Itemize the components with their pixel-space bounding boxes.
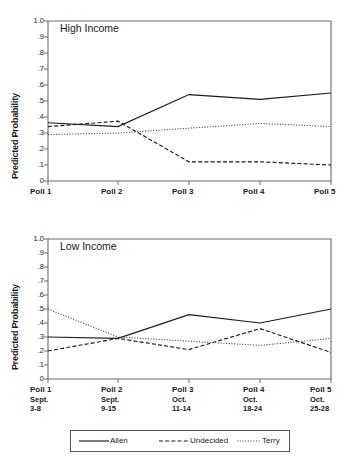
legend-label-terry: Terry: [262, 436, 280, 445]
x-tick-date-month: Sept.: [101, 395, 122, 405]
series-line-allen: [48, 93, 331, 127]
chart-legend: Allen Undecided Terry: [70, 430, 290, 452]
legend-label-allen: Allen: [110, 436, 128, 445]
x-tick-date-month: Oct.: [243, 395, 264, 405]
x-tick-label: Poll 2 Sept. 9-15: [101, 385, 122, 414]
legend-swatches: [71, 431, 289, 451]
x-tick-label: Poll 1 Sept. 3-8: [30, 385, 51, 414]
plot-area-high-income: [0, 4, 363, 209]
x-tick-date-range: 3-8: [30, 404, 51, 414]
chart-panel-low-income: Predicted Probability Low Income 1.0 .9 …: [0, 222, 363, 397]
x-tick-date-month: Sept.: [30, 395, 51, 405]
x-tick-poll-label: Poll 3: [172, 385, 193, 394]
series-line-undecided: [48, 329, 331, 353]
series-line-allen: [48, 309, 331, 338]
x-tick-date-range: 25-28: [310, 404, 331, 414]
x-tick-date-range: 18-24: [243, 404, 264, 414]
x-tick-label: Poll 3: [172, 187, 193, 197]
x-tick-date-month: Oct.: [310, 395, 331, 405]
x-tick-date-range: 9-15: [101, 404, 122, 414]
x-tick-label: Poll 3 Oct. 11-14: [172, 385, 193, 414]
plot-area-low-income: [0, 222, 363, 397]
series-line-undecided: [48, 121, 331, 165]
x-tick-label: Poll 4: [243, 187, 264, 197]
x-tick-date-range: 11-14: [172, 404, 193, 414]
x-tick-date-month: Oct.: [172, 395, 193, 405]
x-tick-label: Poll 5 Oct. 25-28: [310, 385, 331, 414]
x-tick-label: Poll 1: [30, 187, 51, 197]
x-tick-poll-label: Poll 5: [310, 385, 331, 394]
x-tick-label: Poll 2: [101, 187, 122, 197]
legend-label-undecided: Undecided: [190, 436, 228, 445]
x-tick-poll-label: Poll 2: [101, 385, 122, 394]
chart-panel-high-income: Predicted Probability High Income 1.0 .9…: [0, 4, 363, 209]
poll-prediction-figure: Predicted Probability High Income 1.0 .9…: [0, 0, 363, 468]
x-tick-label: Poll 4 Oct. 18-24: [243, 385, 264, 414]
x-tick-poll-label: Poll 1: [30, 385, 51, 394]
x-tick-poll-label: Poll 4: [243, 385, 264, 394]
x-tick-label: Poll 5: [314, 187, 335, 197]
